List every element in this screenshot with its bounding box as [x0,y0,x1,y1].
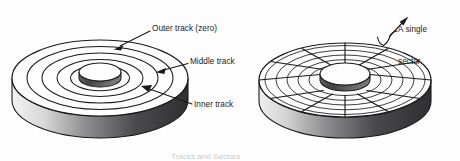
label-single-sector-line2: sector [398,57,427,68]
label-single-sector-line1: A single [398,25,427,36]
figure-caption: Tracks and Sectors [171,152,241,161]
tracks-disk [12,40,188,138]
label-outer-track: Outer track (zero) [152,24,217,34]
label-single-sector: A single sector [398,4,427,88]
sectors-disk-center-hole [320,63,370,91]
tracks-disk-center-hole [79,63,121,87]
hole-opening [79,63,121,81]
label-middle-track: Middle track [190,57,235,67]
hole-opening [320,63,370,85]
disk-tracks-sectors-figure: Outer track (zero) Middle track Inner tr… [0,0,460,161]
label-inner-track: Inner track [194,100,233,110]
figure-canvas [0,0,460,161]
